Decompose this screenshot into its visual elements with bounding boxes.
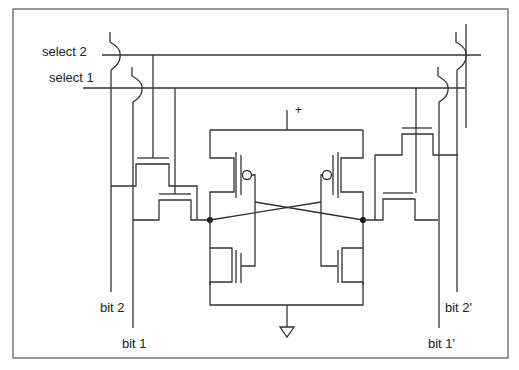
bit-2-prime-label: bit 2' bbox=[445, 300, 472, 315]
pmos-left-channel bbox=[210, 130, 234, 285]
select-2-label: select 2 bbox=[42, 44, 87, 59]
bit-1-line bbox=[132, 67, 142, 328]
nmos-right-channel bbox=[342, 248, 363, 282]
bit-1-prime-label: bit 1' bbox=[428, 336, 455, 351]
circuit-diagram: select 2 select 1 bit 2 bit 1 bit 2' bit… bbox=[0, 0, 519, 370]
bit-2-prime-line bbox=[456, 32, 466, 292]
supply-plus-label: + bbox=[295, 103, 302, 117]
left-port1-channel bbox=[133, 200, 210, 220]
select-1-label: select 1 bbox=[49, 70, 94, 85]
pmos-right-bubble bbox=[323, 171, 332, 180]
left-port2-channel bbox=[111, 164, 197, 220]
left-inverter-gate-wire bbox=[241, 175, 255, 266]
pmos-left-bubble bbox=[243, 171, 252, 180]
ground-icon bbox=[280, 327, 294, 337]
nmos-left-channel bbox=[210, 248, 232, 282]
right-port1-channel bbox=[363, 199, 438, 220]
ground-rail bbox=[210, 282, 363, 305]
bit-2-line bbox=[110, 32, 120, 292]
pmos-right-channel bbox=[341, 130, 363, 285]
bit-2-label: bit 2 bbox=[100, 300, 125, 315]
cross-couple-wire-a bbox=[210, 202, 321, 220]
cross-couple-wire-b bbox=[255, 202, 363, 220]
bit-1-label: bit 1 bbox=[122, 336, 147, 351]
bit-1-prime-line bbox=[438, 67, 448, 328]
right-inverter-gate-wire bbox=[321, 175, 337, 266]
